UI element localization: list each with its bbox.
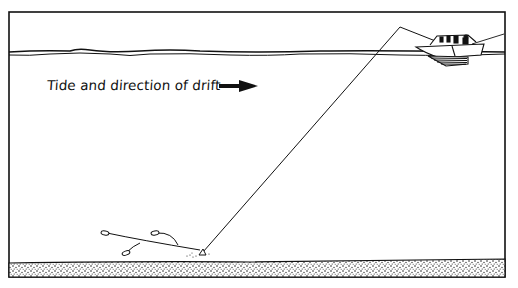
seabed: [9, 259, 505, 277]
right-arrow-icon: [219, 80, 258, 92]
drift-fishing-diagram: [0, 0, 518, 288]
drift-caption: Tide and direction of drift: [46, 77, 221, 93]
hook-rig: [101, 230, 210, 257]
fishing-line: [203, 27, 438, 252]
